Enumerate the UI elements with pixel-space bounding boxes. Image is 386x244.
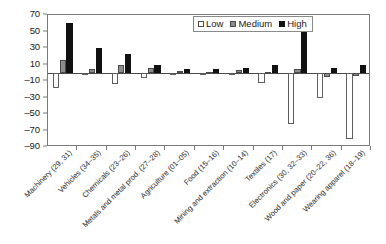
- legend-swatch-high-icon: [279, 21, 285, 27]
- bar-low: [346, 73, 352, 139]
- y-tick-label: –10: [24, 75, 40, 85]
- bar-group: [283, 15, 312, 145]
- bar-high: [301, 32, 307, 73]
- legend-swatch-low-icon: [198, 21, 204, 27]
- legend-label-high: High: [287, 19, 307, 29]
- bar-low: [229, 73, 235, 75]
- legend-item-medium: Medium: [230, 19, 272, 29]
- x-tick-mark: [282, 146, 283, 150]
- bar-high: [243, 68, 249, 73]
- bar-medium: [294, 69, 300, 73]
- bars-layer: [48, 15, 369, 145]
- bar-high: [125, 54, 131, 73]
- y-tick-label: 10: [30, 59, 40, 69]
- bar-medium: [236, 70, 242, 72]
- y-tick-label: –70: [24, 125, 40, 135]
- bar-group: [136, 15, 165, 145]
- bar-medium: [118, 65, 124, 72]
- y-tick-label: 70: [30, 9, 40, 19]
- x-tick-mark: [76, 146, 77, 150]
- y-tick-label: –30: [24, 92, 40, 102]
- bar-low: [317, 73, 323, 98]
- bar-group: [165, 15, 194, 145]
- bar-medium: [206, 72, 212, 74]
- x-tick-mark: [164, 146, 165, 150]
- bar-group: [312, 15, 341, 145]
- bar-medium: [148, 68, 154, 73]
- bar-group: [107, 15, 136, 145]
- bar-high: [96, 48, 102, 73]
- legend-swatch-medium-icon: [230, 21, 236, 27]
- bar-group: [77, 15, 106, 145]
- bar-group: [224, 15, 253, 145]
- bar-group: [342, 15, 371, 145]
- legend-label-low: Low: [206, 19, 223, 29]
- bar-high: [360, 65, 366, 72]
- bar-group: [195, 15, 224, 145]
- x-axis-labels: Machinery (29, 31)Vehicles (34–35)Chemic…: [0, 147, 386, 244]
- bar-medium: [265, 72, 271, 74]
- bar-low: [82, 73, 88, 75]
- bar-low: [288, 73, 294, 124]
- bar-low: [170, 73, 176, 75]
- bar-low: [53, 73, 59, 88]
- x-axis-category-label: Wearing apparel (18–19): [302, 149, 367, 214]
- x-tick-mark: [341, 146, 342, 150]
- y-tick-label: 30: [30, 42, 40, 52]
- legend-label-medium: Medium: [238, 19, 272, 29]
- bar-high: [154, 65, 160, 73]
- bar-group: [48, 15, 77, 145]
- y-axis: 70503010–10–30–50–70–90: [0, 14, 45, 146]
- x-tick-mark: [106, 146, 107, 150]
- bar-medium: [353, 73, 359, 76]
- bar-medium: [60, 60, 66, 72]
- y-tick-label: 50: [30, 26, 40, 36]
- bar-low: [112, 73, 118, 85]
- bar-high: [184, 69, 190, 73]
- x-tick-mark: [311, 146, 312, 150]
- x-tick-mark: [135, 146, 136, 150]
- chart-legend: Low Medium High: [193, 16, 313, 32]
- bar-group: [254, 15, 283, 145]
- x-tick-mark: [370, 146, 371, 150]
- bar-low: [141, 73, 147, 78]
- x-axis-category-label: Machinery (29, 31): [23, 149, 73, 199]
- bar-medium: [324, 73, 330, 77]
- legend-item-low: Low: [198, 19, 223, 29]
- x-tick-mark: [194, 146, 195, 150]
- bar-chart: 70503010–10–30–50–70–90 Low Medium High …: [0, 0, 386, 244]
- bar-low: [200, 73, 206, 75]
- bar-medium: [177, 71, 183, 73]
- y-tick-label: –50: [24, 108, 40, 118]
- bar-high: [331, 68, 337, 73]
- bar-high: [66, 23, 72, 73]
- plot-area: [47, 14, 370, 146]
- bar-low: [258, 73, 264, 83]
- x-tick-mark: [253, 146, 254, 150]
- x-tick-mark: [223, 146, 224, 150]
- bar-high: [213, 69, 219, 73]
- bar-medium: [89, 69, 95, 72]
- legend-item-high: High: [279, 19, 307, 29]
- bar-high: [272, 65, 278, 72]
